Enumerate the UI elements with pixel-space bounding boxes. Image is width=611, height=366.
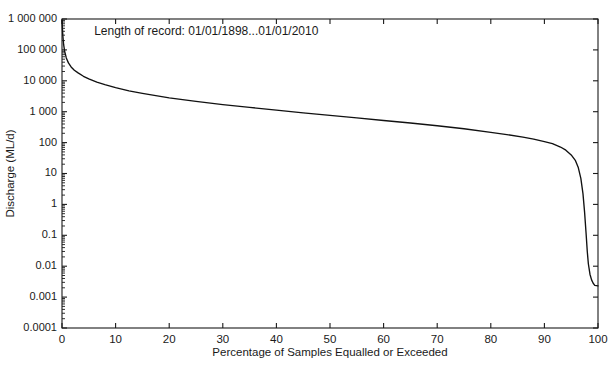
x-tick-label: 40 [270, 333, 283, 345]
chart-svg: 0.00010.0010.010.11101001 00010 000100 0… [0, 0, 611, 366]
x-tick-label: 20 [163, 333, 176, 345]
x-tick-label: 70 [431, 333, 444, 345]
y-tick-label: 100 [39, 136, 57, 148]
y-tick-label: 10 [45, 166, 57, 178]
x-tick-label: 90 [538, 333, 551, 345]
y-tick-label: 10 000 [23, 74, 57, 86]
y-tick-label: 0.01 [36, 259, 57, 271]
y-tick-label: 1 000 [29, 105, 57, 117]
x-tick-label: 0 [59, 333, 65, 345]
y-tick-label: 1 [51, 197, 57, 209]
chart-canvas: 0.00010.0010.010.11101001 00010 000100 0… [0, 0, 611, 366]
x-tick-label: 30 [216, 333, 229, 345]
chart-background [0, 0, 611, 366]
x-axis-title: Percentage of Samples Equalled or Exceed… [212, 346, 447, 358]
x-tick-label: 50 [324, 333, 337, 345]
x-tick-label: 10 [109, 333, 122, 345]
y-tick-label: 100 000 [17, 43, 57, 55]
y-tick-label: 0.0001 [23, 321, 57, 333]
y-axis-title: Discharge (ML/d) [4, 129, 16, 217]
flow-duration-chart: 0.00010.0010.010.11101001 00010 000100 0… [0, 0, 611, 366]
x-tick-label: 100 [588, 333, 607, 345]
y-tick-label: 0.1 [42, 228, 57, 240]
x-tick-label: 60 [377, 333, 390, 345]
y-tick-label: 1 000 000 [8, 12, 57, 24]
length-of-record-annotation: Length of record: 01/01/1898...01/01/201… [94, 24, 319, 38]
y-tick-label: 0.001 [29, 290, 57, 302]
x-tick-label: 80 [484, 333, 497, 345]
